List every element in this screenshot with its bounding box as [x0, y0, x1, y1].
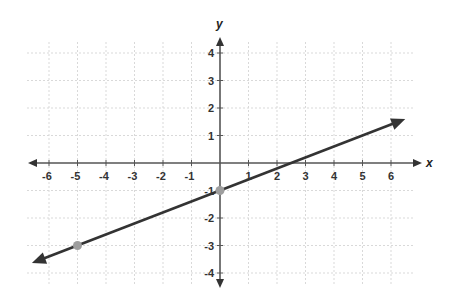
data-point	[216, 186, 225, 195]
x-tick-label: -4	[99, 170, 110, 182]
y-tick-label: -3	[204, 240, 214, 252]
y-axis-down-arrow-icon	[216, 279, 224, 288]
x-tick-label: 5	[359, 170, 365, 182]
y-axis-label: y	[215, 17, 224, 31]
x-tick-label: 2	[274, 170, 280, 182]
y-axis-up-arrow-icon	[216, 37, 224, 46]
y-tick-label: -4	[204, 267, 215, 279]
x-tick-label: 6	[388, 170, 394, 182]
x-tick-label: -3	[128, 170, 138, 182]
y-tick-label: 1	[208, 130, 214, 142]
y-tick-label: 3	[208, 75, 214, 87]
y-tick-label: -2	[204, 212, 214, 224]
x-tick-label: 4	[331, 170, 338, 182]
x-axis-label: x	[425, 156, 434, 170]
x-tick-label: -1	[185, 170, 195, 182]
x-tick-label: -2	[156, 170, 166, 182]
x-tick-label: -5	[71, 170, 81, 182]
line-right-arrow-icon	[390, 118, 405, 129]
x-axis-right-arrow-icon	[413, 159, 422, 167]
y-tick-label: 2	[208, 102, 214, 114]
coordinate-plane: -6-5-4-3-2-11234564321-1-2-3-4 x y	[0, 0, 453, 303]
x-tick-label: 3	[302, 170, 308, 182]
data-point	[73, 241, 82, 250]
x-axis-left-arrow-icon	[28, 159, 37, 167]
x-tick-label: -6	[42, 170, 52, 182]
y-tick-label: 4	[208, 47, 215, 59]
line-left-arrow-icon	[32, 252, 47, 263]
